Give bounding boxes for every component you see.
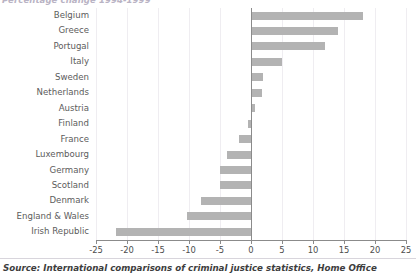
axis-tick-label: 5: [279, 245, 284, 255]
axis-tick-label: -15: [151, 245, 165, 255]
bar-chart: Percentage change 1994-1999 BelgiumGreec…: [0, 0, 416, 278]
axis-tick: [189, 240, 190, 244]
axis-tick-label: 25: [401, 245, 412, 255]
source-note: Source: International comparisons of cri…: [3, 263, 377, 273]
axis-tick: [344, 240, 345, 244]
category-label: England & Wales: [0, 209, 92, 224]
bar: [251, 73, 263, 81]
bar: [220, 181, 251, 189]
axis-tick: [158, 240, 159, 244]
gridline: [406, 8, 407, 240]
axis-tick: [220, 240, 221, 244]
axis-tick: [282, 240, 283, 244]
bar: [227, 151, 251, 159]
axis-tick-label: 10: [308, 245, 319, 255]
category-label: Luxembourg: [0, 147, 92, 162]
bar: [220, 166, 251, 174]
category-label: Sweden: [0, 70, 92, 85]
axis-tick-label: -10: [182, 245, 196, 255]
axis-tick: [406, 240, 407, 244]
bar: [239, 135, 251, 143]
axis-tick-label: 15: [339, 245, 350, 255]
category-label: Belgium: [0, 8, 92, 23]
plot-area: [96, 8, 406, 240]
category-label: Greece: [0, 23, 92, 38]
category-label: Scotland: [0, 178, 92, 193]
bar: [201, 197, 251, 205]
bar: [251, 89, 262, 97]
bar: [251, 27, 338, 35]
category-label: Italy: [0, 54, 92, 69]
category-label: Irish Republic: [0, 224, 92, 239]
category-label: Netherlands: [0, 85, 92, 100]
axis-tick-label: 20: [370, 245, 381, 255]
category-label: France: [0, 132, 92, 147]
axis-tick: [96, 240, 97, 244]
category-label: Portugal: [0, 39, 92, 54]
footer-divider: [0, 258, 416, 259]
axis-tick: [251, 240, 252, 244]
axis-tick-label: -25: [89, 245, 103, 255]
category-label: Denmark: [0, 193, 92, 208]
bar: [116, 228, 251, 236]
category-label: Austria: [0, 101, 92, 116]
chart-title: Percentage change 1994-1999: [2, 0, 151, 5]
bar: [251, 12, 363, 20]
bar: [251, 42, 325, 50]
category-label: Germany: [0, 163, 92, 178]
axis-tick-label: -20: [120, 245, 134, 255]
axis-tick-label: -5: [216, 245, 224, 255]
bar: [251, 58, 282, 66]
bar: [187, 212, 251, 220]
axis-tick-label: 0: [248, 245, 253, 255]
category-label: Finland: [0, 116, 92, 131]
zero-line: [251, 8, 252, 240]
category-axis-labels: BelgiumGreecePortugalItalySwedenNetherla…: [0, 8, 92, 240]
axis-tick: [375, 240, 376, 244]
axis-tick: [127, 240, 128, 244]
axis-tick: [313, 240, 314, 244]
